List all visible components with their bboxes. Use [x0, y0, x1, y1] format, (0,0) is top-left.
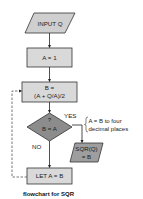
flowchart-diagram: INPUT Q A = 1 B = (A + Q/A)/2 ? B = A YE…: [0, 0, 143, 199]
decision-label-line2: B = A: [42, 125, 58, 132]
output-node: SQR(Q) = B: [70, 143, 103, 162]
init-node: A = 1: [27, 48, 72, 67]
decision-label-line1: ?: [48, 116, 52, 123]
no-label: NO: [32, 143, 41, 150]
yes-note-line1: A = B to four: [89, 118, 122, 124]
compute-label-line1: B =: [45, 84, 55, 91]
init-label: A = 1: [42, 54, 57, 61]
input-label: INPUT Q: [38, 20, 63, 27]
loop-back-arrow: [12, 91, 27, 177]
compute-label-line2: (A + Q/A)/2: [34, 92, 65, 99]
output-label-line1: SQR(Q): [75, 145, 97, 152]
caption: flowchart for SQR: [23, 191, 75, 197]
compute-node: B = (A + Q/A)/2: [22, 82, 77, 102]
input-node: INPUT Q: [25, 13, 75, 33]
yes-note-line2: decimal places: [89, 126, 129, 132]
arrow-yes-to-output: [72, 125, 82, 143]
brace-icon: [85, 117, 89, 132]
update-node: LET A = B: [27, 168, 72, 184]
update-label: LET A = B: [36, 172, 64, 179]
output-label-line2: = B: [82, 153, 91, 160]
yes-label: YES: [64, 112, 76, 119]
